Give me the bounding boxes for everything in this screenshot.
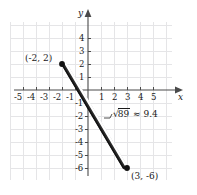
x-tick-label-1: 1 — [99, 93, 104, 102]
y-axis-label: y — [78, 9, 83, 18]
y-axis-arrow — [85, 9, 92, 17]
radicand-value: 89 — [118, 108, 130, 119]
x-tick-label-2: 2 — [112, 93, 117, 102]
x-tick-label--2: -2 — [53, 93, 61, 102]
x-tick-label--5: -5 — [14, 93, 22, 102]
x-tick-label--3: -3 — [40, 93, 48, 102]
y-tick-label--2: -2 — [75, 112, 83, 121]
x-tick-label--4: -4 — [27, 93, 35, 102]
x-tick-label-5: 5 — [151, 93, 156, 102]
y-tick-label--4: -4 — [75, 138, 83, 147]
x-axis-label: x — [178, 93, 183, 102]
coordinate-plane-figure: Distance between two points on a coordin… — [0, 0, 197, 195]
x-tick-label--1: -1 — [66, 93, 74, 102]
point-marker-b — [124, 165, 130, 171]
point-label-b: (3, -6) — [131, 172, 158, 181]
distance-value: 9.4 — [144, 109, 158, 119]
y-tick-label-1: 1 — [79, 73, 84, 82]
point-marker-a — [59, 61, 65, 67]
y-tick-label--1: -1 — [75, 99, 83, 108]
distance-annotation: √89 ≈ 9.4 — [113, 110, 158, 119]
point-label-a: (-2, 2) — [25, 54, 52, 63]
y-tick-label-2: 2 — [79, 60, 84, 69]
y-tick-label--3: -3 — [75, 125, 83, 134]
y-tick-label--5: -5 — [75, 151, 83, 160]
y-tick-label--6: -6 — [75, 164, 83, 173]
y-tick-label-3: 3 — [79, 47, 84, 56]
approx-equals-icon: ≈ — [133, 109, 141, 119]
x-tick-label-3: 3 — [125, 93, 130, 102]
y-tick-label-4: 4 — [79, 34, 84, 43]
x-tick-label-4: 4 — [138, 93, 143, 102]
